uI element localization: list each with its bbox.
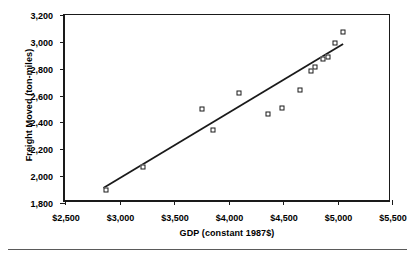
y-tick: 2,400: [60, 122, 65, 123]
data-point: [279, 106, 284, 111]
x-tick: $5,000: [338, 200, 339, 205]
x-tick-label: $5,000: [325, 213, 353, 223]
y-tick-label: 2,200: [30, 145, 53, 155]
x-tick: $5,500: [392, 200, 393, 205]
x-tick-label: $2,500: [52, 213, 80, 223]
x-tick: $2,500: [65, 200, 66, 205]
y-tick-label: 2,600: [30, 92, 53, 102]
y-tick: 3,200: [60, 15, 65, 16]
y-tick-label: 2,400: [30, 118, 53, 128]
data-point: [140, 165, 145, 170]
data-point: [332, 41, 337, 46]
y-tick: 2,200: [60, 149, 65, 150]
x-axis-label: GDP (constant 1987$): [63, 228, 391, 238]
plot-overlay: [65, 15, 389, 200]
data-point: [297, 87, 302, 92]
y-tick-label: 2,800: [30, 65, 53, 75]
data-point: [211, 128, 216, 133]
x-tick-label: $3,000: [107, 213, 135, 223]
x-tick-label: $5,500: [379, 213, 407, 223]
data-point: [313, 64, 318, 69]
y-tick: 2,000: [60, 176, 65, 177]
x-tick: $3,000: [120, 200, 121, 205]
plot-area: 1,8002,0002,2002,4002,6002,8003,0003,200…: [63, 14, 390, 202]
chart-figure: Freight Moved (ton-miles) 1,8002,0002,20…: [0, 0, 415, 260]
y-tick: 2,800: [60, 69, 65, 70]
footer-rule: [8, 249, 407, 250]
data-point: [265, 111, 270, 116]
y-tick-label: 3,000: [30, 38, 53, 48]
y-tick: 2,600: [60, 96, 65, 97]
x-tick: $3,500: [174, 200, 175, 205]
y-tick-label: 3,200: [30, 11, 53, 21]
x-tick-label: $4,500: [270, 213, 298, 223]
data-point: [340, 30, 345, 35]
data-point: [199, 107, 204, 112]
trend-line: [103, 44, 343, 188]
data-point: [103, 187, 108, 192]
x-tick-label: $4,000: [216, 213, 244, 223]
data-point: [325, 54, 330, 59]
x-tick: $4,000: [229, 200, 230, 205]
x-tick-label: $3,500: [161, 213, 189, 223]
y-tick-label: 1,800: [30, 199, 53, 209]
x-tick: $4,500: [283, 200, 284, 205]
data-point: [236, 90, 241, 95]
y-tick: 3,000: [60, 42, 65, 43]
y-tick-label: 2,000: [30, 172, 53, 182]
